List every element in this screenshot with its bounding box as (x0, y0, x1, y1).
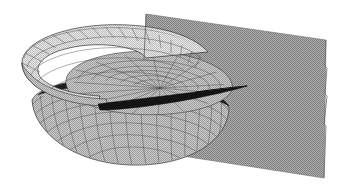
plane-sheet-intersection (144, 14, 150, 60)
surface-plot (0, 0, 346, 187)
figure-root: Riemann surface with vertical cutting pl… (0, 0, 346, 187)
